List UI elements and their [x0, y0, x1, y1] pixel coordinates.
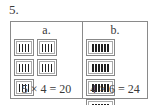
tally-bar — [22, 44, 24, 52]
panel-a: a. 5 × 4 = 20 — [11, 22, 83, 98]
tally-bar — [92, 104, 94, 106]
figure-box: a. 5 × 4 = 20 b. 4 × 6 = 24 — [10, 21, 148, 99]
tally-group — [86, 59, 115, 76]
tally-bar — [98, 104, 100, 106]
panel-a-equation: 5 × 4 = 20 — [11, 83, 82, 96]
tally-group-inner — [88, 101, 113, 105]
tally-bar — [98, 64, 100, 72]
tally-group — [86, 99, 115, 105]
tally-bar — [95, 104, 97, 106]
tally-bar — [45, 64, 47, 72]
tally-bar — [101, 64, 103, 72]
tally-group-inner — [39, 41, 55, 54]
tally-bar — [48, 64, 50, 72]
tally-group — [14, 39, 34, 56]
tally-bar — [28, 44, 30, 52]
panel-a-label: a. — [11, 24, 82, 37]
tally-bar — [104, 104, 106, 106]
tally-bar — [45, 44, 47, 52]
problem-number: 5. — [9, 3, 19, 17]
panel-b-equation: 4 × 6 = 24 — [83, 83, 147, 96]
tally-bar — [95, 44, 97, 52]
tally-bar — [42, 64, 44, 72]
tally-bar — [95, 64, 97, 72]
tally-bar — [25, 44, 27, 52]
tally-bar — [107, 64, 109, 72]
tally-group — [14, 59, 34, 76]
tally-group — [37, 39, 57, 56]
tally-bar — [28, 64, 30, 72]
tally-bar — [19, 64, 21, 72]
tally-bar — [22, 64, 24, 72]
tally-group-inner — [88, 41, 113, 54]
tally-group-inner — [16, 61, 32, 74]
tally-bar — [51, 44, 53, 52]
tally-bar — [48, 44, 50, 52]
tally-group — [86, 39, 115, 56]
tally-group-inner — [16, 41, 32, 54]
tally-bar — [51, 64, 53, 72]
tally-group — [37, 59, 57, 76]
tally-bar — [107, 44, 109, 52]
panel-b-label: b. — [83, 24, 147, 37]
tally-bar — [101, 44, 103, 52]
tally-bar — [92, 44, 94, 52]
panel-b: b. 4 × 6 = 24 — [83, 22, 147, 98]
tally-bar — [92, 64, 94, 72]
tally-bar — [101, 104, 103, 106]
tally-bar — [19, 44, 21, 52]
tally-bar — [107, 104, 109, 106]
tally-bar — [98, 44, 100, 52]
tally-bar — [104, 44, 106, 52]
tally-bar — [25, 64, 27, 72]
tally-group-inner — [39, 61, 55, 74]
tally-group-inner — [88, 61, 113, 74]
tally-bar — [42, 44, 44, 52]
tally-bar — [104, 64, 106, 72]
